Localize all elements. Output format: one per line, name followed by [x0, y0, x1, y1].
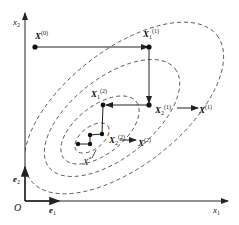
x1-arrow-label: X(1) [199, 104, 212, 115]
x1-1-label: X1(1) [143, 28, 159, 40]
point-x2-2 [100, 132, 104, 136]
e2-label: e2 [13, 175, 20, 185]
point-x1-1 [146, 44, 151, 49]
x2-1-label: X2(1) [155, 104, 171, 116]
origin-label: O [14, 203, 21, 213]
x2-arrow-label: X(2) [138, 137, 151, 148]
xstar-leader [92, 150, 96, 158]
x0-label: X(0) [35, 30, 48, 41]
e1-label: e1 [49, 206, 56, 216]
point-x2-1 [146, 102, 151, 107]
contour-1 [69, 117, 114, 159]
x-axis-label: x1 [213, 206, 220, 216]
y-axis-label: x2 [13, 18, 20, 28]
xstar-label: X* [83, 156, 92, 167]
x2-2-label: X2(2) [109, 134, 125, 146]
x1-2-label: X1(2) [91, 88, 107, 100]
point-x0 [32, 44, 37, 49]
point-x1-2 [101, 103, 106, 108]
contour-3 [24, 37, 199, 199]
